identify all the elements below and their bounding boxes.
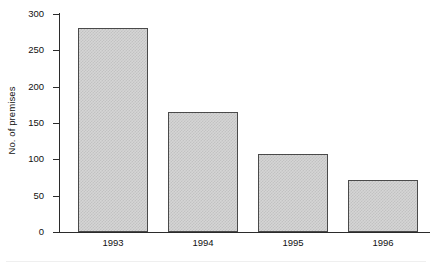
y-axis-tick-label: 300 [0,9,44,19]
y-axis-tick [53,50,59,51]
x-axis-line [59,232,430,233]
y-axis-tick-label: 200 [0,82,44,92]
y-axis-tick-label: 250 [0,45,44,55]
bar [168,112,238,232]
bar [258,154,328,232]
x-axis-tick-label: 1994 [168,238,238,248]
y-axis-tick [53,159,59,160]
x-axis-tick-label: 1993 [78,238,148,248]
x-axis-tick-label: 1995 [258,238,328,248]
y-axis-tick-label: 50 [0,191,44,201]
bar [348,180,418,232]
y-axis-tick-label: 150 [0,118,44,128]
y-axis-tick [53,232,59,233]
y-axis-tick [53,196,59,197]
scan-artifact-line [6,261,426,262]
x-axis-tick-label: 1996 [348,238,418,248]
y-axis-tick-label: 100 [0,154,44,164]
bar [78,28,148,232]
bar-chart: No. of premises 050100150200250300 19931… [0,0,434,265]
y-axis-tick-label: 0 [0,227,44,237]
y-axis-tick [53,14,59,15]
y-axis-tick [53,87,59,88]
plot-area [60,14,430,232]
y-axis-tick [53,123,59,124]
